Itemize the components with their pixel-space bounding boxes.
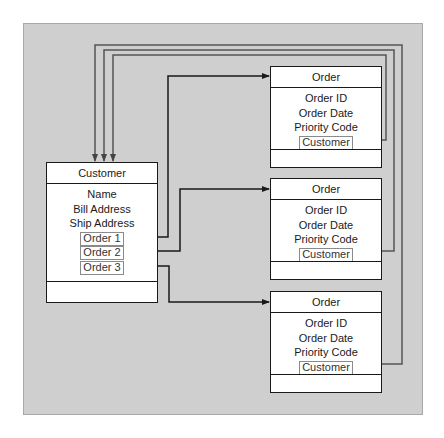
order-1-field-order-date: Order Date [271,106,381,121]
order-2-field-priority-code: Priority Code [271,232,381,247]
order-2-title: Order [271,179,381,200]
order-3-ref-customer: Customer [299,361,353,375]
order-3-methods-section [271,374,381,392]
order-entity-1: Order Order ID Order Date Priority Code … [270,66,382,168]
customer-ref-order-3: Order 3 [80,261,123,275]
order-3-field-order-date: Order Date [271,331,381,346]
order-3-field-order-id: Order ID [271,316,381,331]
order-1-field-order-id: Order ID [271,91,381,106]
customer-title: Customer [47,163,157,184]
order-1-title: Order [271,67,381,88]
order-1-methods-section [271,149,381,167]
order-3-field-priority-code: Priority Code [271,345,381,360]
order-entity-2: Order Order ID Order Date Priority Code … [270,178,382,280]
order-entity-3: Order Order ID Order Date Priority Code … [270,291,382,393]
customer-methods-section [47,281,157,302]
customer-field-bill-address: Bill Address [47,202,157,217]
order-2-ref-customer: Customer [299,248,353,262]
customer-entity: Customer Name Bill Address Ship Address … [46,162,158,303]
order-3-title: Order [271,292,381,313]
customer-field-name: Name [47,187,157,202]
order-2-field-order-id: Order ID [271,203,381,218]
customer-field-ship-address: Ship Address [47,216,157,231]
order-1-ref-customer: Customer [299,136,353,150]
order-2-methods-section [271,261,381,279]
customer-ref-order-2: Order 2 [80,246,123,260]
customer-ref-order-1: Order 1 [80,232,123,246]
order-2-field-order-date: Order Date [271,218,381,233]
order-1-field-priority-code: Priority Code [271,120,381,135]
